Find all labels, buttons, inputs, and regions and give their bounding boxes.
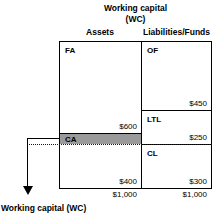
cell-fixed-assets: FA $600 bbox=[60, 42, 141, 133]
label-long-term-liabilities: LTL bbox=[147, 115, 161, 124]
cell-owners-funds: OF $450 bbox=[142, 42, 211, 110]
total-liabilities: $1,000 bbox=[142, 190, 211, 199]
callout-label-working-capital: Working capital (WC) bbox=[1, 203, 86, 213]
label-owners-funds: OF bbox=[147, 46, 158, 55]
callout-arrow-head-icon bbox=[23, 186, 33, 195]
cell-long-term-liabilities: LTL $250 bbox=[142, 110, 211, 144]
label-current-assets: CA bbox=[65, 135, 77, 144]
total-assets: $1,000 bbox=[60, 190, 141, 199]
column-header-assets: Assets bbox=[59, 27, 141, 37]
amount-current-assets: $400 bbox=[119, 177, 137, 186]
column-header-liabilities: Liabilities/Funds bbox=[141, 27, 212, 37]
working-capital-diagram: Working capital (WC) Assets Liabilities/… bbox=[0, 0, 219, 218]
cell-current-assets-body: $400 bbox=[60, 144, 141, 188]
amount-long-term-liabilities: $250 bbox=[189, 133, 207, 142]
cell-current-liabilities: CL $300 bbox=[142, 144, 211, 188]
amount-owners-funds: $450 bbox=[189, 99, 207, 108]
callout-arrow-horizontal bbox=[27, 138, 60, 139]
callout-arrow-vertical bbox=[27, 138, 28, 188]
label-current-liabilities: CL bbox=[147, 149, 158, 158]
working-capital-dotted-line bbox=[27, 144, 212, 145]
amount-fixed-assets: $600 bbox=[119, 122, 137, 131]
label-fixed-assets: FA bbox=[65, 46, 75, 55]
amount-current-liabilities: $300 bbox=[189, 177, 207, 186]
diagram-title: Working capital (WC) bbox=[59, 3, 212, 25]
diagram-title-line2: (WC) bbox=[59, 14, 212, 25]
cell-current-assets-highlight: CA bbox=[60, 133, 141, 144]
diagram-title-line1: Working capital bbox=[104, 3, 167, 13]
